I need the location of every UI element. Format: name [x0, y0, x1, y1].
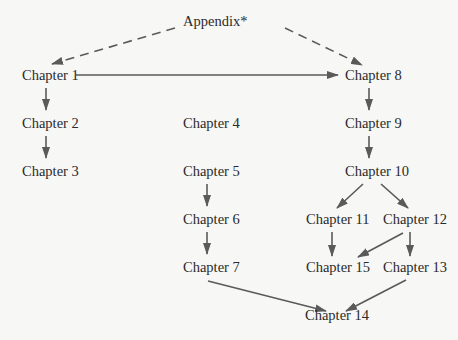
edge-ch10-to-ch12: [381, 184, 408, 208]
node-chapter-12: Chapter 12: [383, 212, 447, 227]
node-chapter-4: Chapter 4: [183, 116, 240, 131]
node-appendix: Appendix*: [183, 14, 247, 29]
edge-ch10-to-ch11: [337, 184, 363, 208]
node-chapter-9: Chapter 9: [345, 116, 402, 131]
node-chapter-8: Chapter 8: [345, 68, 402, 83]
node-chapter-10: Chapter 10: [345, 164, 409, 179]
node-chapter-15: Chapter 15: [306, 260, 370, 275]
node-chapter-6: Chapter 6: [183, 212, 240, 227]
edge-ch12-to-ch15: [358, 233, 403, 257]
node-chapter-3: Chapter 3: [22, 164, 79, 179]
node-chapter-7: Chapter 7: [183, 260, 240, 275]
node-chapter-13: Chapter 13: [383, 260, 447, 275]
node-chapter-2: Chapter 2: [22, 116, 79, 131]
node-chapter-14: Chapter 14: [305, 308, 369, 323]
node-chapter-5: Chapter 5: [183, 164, 240, 179]
edge-appendix-to-ch1: [52, 28, 175, 64]
node-chapter-11: Chapter 11: [306, 212, 370, 227]
edge-appendix-to-ch8: [285, 28, 362, 65]
node-chapter-1: Chapter 1: [22, 68, 79, 83]
